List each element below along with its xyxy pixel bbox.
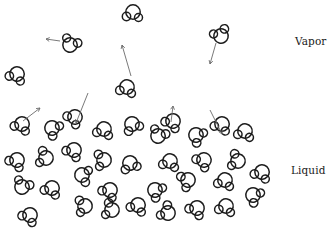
liquid-molecule [214,197,237,217]
liquid-molecule [233,122,256,142]
liquid-molecule [35,146,55,169]
liquid-molecule [117,153,142,176]
vapor-label: Vapor [295,35,326,47]
liquid-molecule [9,114,34,137]
liquid-molecule [119,113,145,138]
vapor-arrow-icon [209,43,216,64]
liquid-molecule [73,164,93,187]
vapor-liquid-diagram [0,0,335,235]
vapor-arrow-icon [46,38,60,42]
liquid-molecule [39,178,64,201]
liquid-molecule [40,116,65,142]
liquid-molecule [213,171,236,191]
liquid-molecule [92,120,115,140]
liquid-molecules [3,105,273,228]
liquid-molecule [155,199,180,225]
liquid-molecule [74,194,94,217]
liquid-molecule [60,138,86,163]
liquid-molecule [249,162,274,185]
vapor-molecule [4,64,29,87]
liquid-molecule [125,195,150,218]
liquid-molecule [174,167,199,193]
vapor-molecule [208,22,234,47]
liquid-molecule [143,178,168,204]
liquid-molecule [227,149,247,172]
liquid-molecule [158,152,181,172]
vapor-molecule [59,33,84,56]
motion-arrows [23,38,222,134]
vapor-arrow-icon [121,45,131,76]
liquid-molecule [16,203,42,228]
liquid-molecule [190,148,216,174]
escape-arrow-icon [23,108,40,121]
vapor-molecules [4,5,234,98]
vapor-molecule [115,78,138,98]
liquid-label: Liquid [291,164,326,176]
liquid-molecule [3,148,29,173]
liquid-molecule [241,183,266,209]
liquid-molecule [61,105,87,131]
liquid-molecule [93,148,113,171]
vapor-molecule [122,5,142,22]
liquid-molecule [147,124,172,147]
liquid-molecule [11,175,36,198]
liquid-molecule [184,123,209,149]
liquid-molecule [183,196,209,221]
